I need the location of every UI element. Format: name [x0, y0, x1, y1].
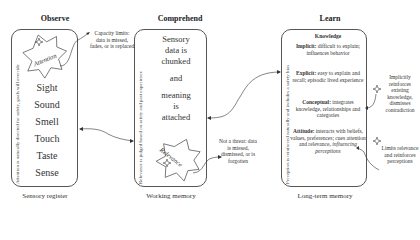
implicit-arrow [366, 94, 376, 108]
term-implicit: Implicit: [296, 43, 316, 49]
capacity-note: Capacity limits: data is missed, fades, … [90, 30, 134, 50]
limits-note: Limits relevance and reinforces percepti… [381, 145, 419, 165]
sense-sight: Sight [12, 82, 82, 93]
capacity-arrow [60, 33, 89, 66]
term-explicit: Explicit: [296, 70, 316, 76]
comprehend-line: chunked [143, 56, 209, 67]
comprehend-line: meaning [143, 90, 209, 101]
not-threat-arrow [193, 157, 221, 173]
limits-sparkle-icon [373, 137, 381, 145]
knowledge-attitude: Attitude: interacts with beliefs, values… [290, 128, 366, 154]
implicitly-note: Implicitly reinforces existing knowledge… [381, 74, 419, 113]
not-threat-note: Not a threat: data is missed, dismissed,… [218, 138, 258, 164]
longterm-to-working-arrow [208, 72, 280, 118]
sense-taste: Taste [12, 150, 82, 161]
implicit-sparkle-icon [373, 85, 381, 93]
knowledge-implicit: Implicit: difficult to explain; influenc… [290, 43, 366, 56]
caption-sensory-register: Sensory register [10, 192, 80, 200]
term-attitude: Attitude: [293, 128, 314, 134]
comprehend-line: is [143, 101, 209, 112]
comprehend-line: and [143, 73, 209, 84]
caption-long-term-memory: Long-term memory [283, 192, 367, 200]
sense-touch: Touch [12, 133, 82, 144]
knowledge-explicit: Explicit: easy to explain and recall; ep… [290, 70, 366, 83]
register-to-working-arrow [80, 129, 133, 141]
knowledge-conceptual: Conceptual: integrates knowledge, relati… [290, 99, 366, 119]
term-conceptual: Conceptual: [302, 99, 331, 105]
knowledge-title: Knowledge [290, 33, 366, 40]
comprehend-line: Sensory [143, 34, 209, 45]
comprehend-line: attached [143, 112, 209, 123]
sense-smell: Smell [12, 116, 82, 127]
caption-working-memory: Working memory [134, 192, 208, 200]
sense-sense: Sense [12, 167, 82, 178]
comprehend-line: data is [143, 45, 209, 56]
comprehend-body: Sensory data is chunked and meaning is a… [143, 34, 209, 123]
sense-sound: Sound [12, 99, 82, 110]
